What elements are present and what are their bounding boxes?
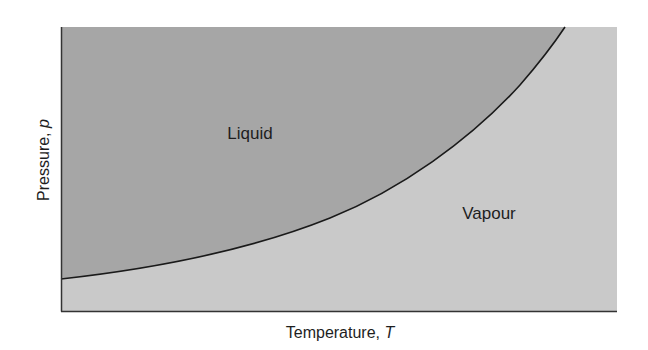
y-axis-label: Pressure, p xyxy=(35,119,52,201)
x-axis-variable: T xyxy=(384,324,395,341)
phase-diagram: Liquid Vapour Temperature, T Pressure, p xyxy=(0,0,648,350)
vapour-label: Vapour xyxy=(462,204,516,223)
y-axis-variable: p xyxy=(35,119,52,129)
x-axis-label: Temperature, T xyxy=(286,324,396,341)
liquid-label: Liquid xyxy=(227,124,272,143)
